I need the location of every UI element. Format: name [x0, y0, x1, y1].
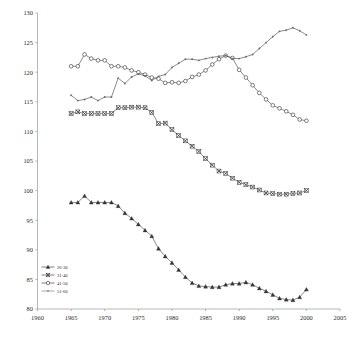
data-point-marker-dot	[137, 73, 139, 75]
data-point-marker-x-box	[143, 106, 147, 110]
data-point-marker-dot	[198, 59, 200, 61]
legend-item-51-60[interactable]: 51-60	[42, 289, 69, 294]
data-point-marker-circle	[83, 53, 87, 57]
data-point-marker-dot	[151, 80, 153, 82]
data-point-marker-circle	[123, 66, 127, 70]
data-point-marker-dot	[70, 94, 72, 96]
data-point-marker-circle	[150, 76, 154, 80]
data-point-marker-dot	[144, 75, 146, 77]
data-point-marker-dot	[252, 53, 254, 55]
legend-item-31-40[interactable]: 31-40	[42, 273, 69, 278]
data-point-marker-x-box	[237, 180, 241, 184]
data-point-marker-dot	[191, 58, 193, 60]
data-point-marker-triangle	[278, 296, 282, 300]
data-point-marker-x-box	[157, 122, 161, 126]
data-point-marker-dot	[110, 96, 112, 98]
data-point-marker-dot	[231, 58, 233, 60]
x-axis-tick-label: 2000	[300, 314, 313, 321]
legend-label: 51-60	[57, 289, 68, 294]
x-axis-tick-label: 2005	[334, 314, 347, 321]
data-point-marker-dot	[285, 29, 287, 31]
data-point-marker-x-box	[264, 191, 268, 195]
data-point-marker-triangle	[271, 293, 275, 297]
data-point-marker-dot	[124, 82, 126, 84]
y-axis-tick-label: 120	[23, 69, 33, 76]
y-axis-tick-label: 125	[23, 39, 33, 46]
x-axis: 1960196519701975198019851990199520002005	[31, 309, 346, 321]
data-point-marker-x-box	[83, 112, 87, 116]
legend-item-41-50[interactable]: 41-50	[42, 281, 69, 286]
data-point-marker-x-box	[257, 188, 261, 192]
data-point-marker-triangle	[244, 280, 248, 284]
data-point-marker-dot	[90, 96, 92, 98]
data-point-marker-circle	[170, 80, 174, 84]
data-point-marker-x-box	[244, 183, 248, 187]
data-point-marker-circle	[46, 281, 49, 284]
data-point-marker-circle	[116, 64, 120, 68]
data-point-marker-circle	[271, 104, 275, 108]
data-point-marker-circle	[163, 81, 167, 85]
y-axis-tick-label: 80	[27, 305, 33, 312]
data-point-marker-x-box	[304, 189, 308, 193]
data-point-marker-circle	[237, 68, 241, 72]
y-axis-tick-label: 110	[24, 128, 33, 135]
chart-canvas: 80859095100105110115120125130 1960196519…	[0, 0, 353, 339]
legend-item-26-30[interactable]: 26-30	[42, 265, 69, 270]
data-point-marker-dot	[279, 30, 281, 32]
data-point-marker-triangle	[257, 286, 261, 290]
data-point-marker-circle	[130, 69, 134, 73]
data-point-marker-triangle	[264, 289, 268, 293]
chart-legend: 26-3031-4041-5051-60	[42, 265, 69, 294]
data-point-marker-x-box	[136, 105, 140, 109]
data-point-marker-dot	[305, 34, 307, 36]
data-point-marker-circle	[96, 59, 100, 63]
series-line-26-30	[71, 196, 306, 300]
data-point-marker-x-box	[89, 112, 93, 116]
data-point-marker-triangle	[116, 204, 120, 208]
data-point-marker-circle	[264, 98, 268, 102]
y-axis: 80859095100105110115120125130	[23, 9, 37, 312]
data-point-marker-circle	[257, 91, 261, 95]
y-axis-tick-label: 105	[23, 157, 33, 164]
data-point-marker-circle	[244, 76, 248, 80]
data-point-marker-x-box	[46, 273, 50, 277]
data-point-marker-dot	[258, 48, 260, 50]
y-axis-tick-label: 100	[23, 187, 33, 194]
x-axis-tick-label: 1965	[65, 314, 78, 321]
data-point-marker-x-box	[278, 192, 282, 196]
data-point-marker-circle	[177, 81, 181, 85]
line-chart: 80859095100105110115120125130 1960196519…	[0, 0, 353, 339]
data-point-marker-triangle	[83, 194, 87, 198]
data-point-marker-x-box	[150, 111, 154, 115]
data-point-marker-dot	[184, 58, 186, 60]
series-51-60	[70, 27, 307, 102]
data-point-marker-triangle	[304, 287, 308, 291]
data-point-marker-circle	[103, 59, 107, 63]
series-layer	[69, 27, 308, 302]
data-point-marker-x-box	[230, 176, 234, 180]
data-point-marker-x-box	[116, 106, 120, 110]
data-point-marker-circle	[190, 75, 194, 79]
data-point-marker-dot	[97, 100, 99, 102]
data-point-marker-dot	[164, 74, 166, 76]
data-point-marker-dot	[117, 77, 119, 79]
data-point-marker-dot	[245, 56, 247, 58]
data-point-marker-circle	[69, 64, 73, 68]
data-point-marker-dot	[178, 62, 180, 64]
data-point-marker-triangle	[157, 247, 161, 251]
data-point-marker-dot	[171, 67, 173, 69]
data-point-marker-circle	[284, 109, 288, 113]
legend-label: 26-30	[57, 265, 68, 270]
data-point-marker-x-box	[190, 144, 194, 148]
data-point-marker-circle	[210, 63, 214, 67]
data-point-marker-dot	[272, 36, 274, 38]
data-point-marker-x-box	[163, 121, 167, 125]
y-axis-tick-label: 90	[27, 246, 33, 253]
data-point-marker-circle	[204, 69, 208, 73]
data-point-marker-dot	[131, 76, 133, 78]
data-point-marker-x-box	[291, 192, 295, 196]
series-26-30	[69, 194, 308, 302]
y-axis-tick-label: 130	[23, 9, 33, 16]
data-point-marker-x-box	[177, 134, 181, 138]
data-point-marker-dot	[299, 30, 301, 32]
